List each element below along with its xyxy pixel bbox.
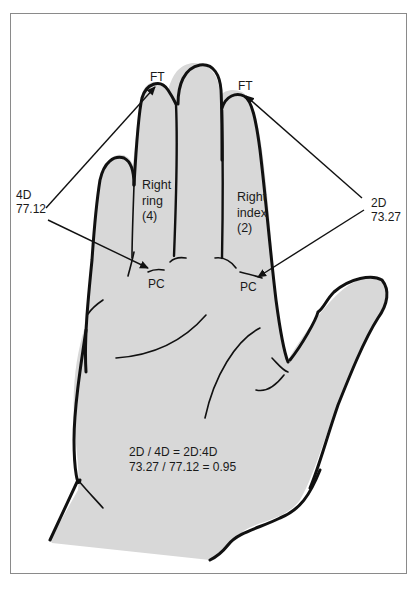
4d-measurement: 4D 77.12	[16, 188, 46, 216]
2d-label: 2D	[371, 196, 401, 210]
ring-label-line1: Right	[142, 178, 171, 194]
hand-silhouette	[50, 63, 386, 560]
ratio-formula: 2D / 4D = 2D:4D 73.27 / 77.12 = 0.95	[129, 445, 236, 475]
ring-ft-label: FT	[150, 70, 165, 84]
index-finger-label: Right index (2)	[237, 190, 267, 237]
ring-finger-label: Right ring (4)	[142, 178, 171, 225]
2d-arrow-to-pc	[258, 210, 364, 277]
2d-measurement: 2D 73.27	[371, 196, 401, 224]
index-pc-label: PC	[240, 280, 257, 294]
formula-line2: 73.27 / 77.12 = 0.95	[129, 460, 236, 475]
index-label-line3: (2)	[237, 221, 267, 237]
ring-pc-label: PC	[148, 277, 165, 291]
hand-diagram	[0, 0, 414, 612]
middle-index-gap	[222, 110, 223, 258]
index-label-line1: Right	[237, 190, 267, 206]
2d-value: 73.27	[371, 210, 401, 224]
ring-label-line3: (4)	[142, 209, 171, 225]
formula-line1: 2D / 4D = 2D:4D	[129, 445, 236, 460]
index-label-line2: index	[237, 206, 267, 222]
ring-label-line2: ring	[142, 194, 171, 210]
4d-value: 77.12	[16, 202, 46, 216]
4d-label: 4D	[16, 188, 46, 202]
index-ft-label: FT	[238, 79, 253, 93]
